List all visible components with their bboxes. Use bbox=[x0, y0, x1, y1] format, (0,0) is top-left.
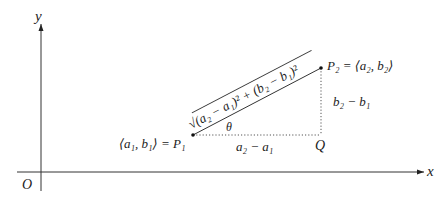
point-p2 bbox=[319, 66, 323, 70]
hypotenuse bbox=[193, 68, 321, 135]
q-label: Q bbox=[315, 138, 325, 153]
p1-label: ⟨a₁, b₁⟩ = P₁ bbox=[119, 136, 185, 151]
angle-theta-label: θ bbox=[226, 120, 232, 134]
hypotenuse-label-group: √(a₂ − a₁)² + (b₂ − b₁)² bbox=[185, 50, 320, 131]
hypotenuse-label: √(a₂ − a₁)² + (b₂ − b₁)² bbox=[186, 61, 302, 131]
origin-label: O bbox=[22, 177, 32, 192]
distance-diagram: x y O √(a₂ − a₁)² + (b₂ − b₁)² θ ⟨a₁, b₁… bbox=[0, 0, 436, 199]
p2-label: P₂ = ⟨a₂, b₂⟩ bbox=[326, 58, 393, 73]
x-axis-label: x bbox=[426, 163, 434, 179]
vertical-leg-label: b₂ − b₁ bbox=[333, 94, 370, 109]
horizontal-leg-label: a₂ − a₁ bbox=[236, 139, 273, 154]
point-p1 bbox=[191, 133, 195, 137]
y-axis-label: y bbox=[33, 8, 42, 24]
